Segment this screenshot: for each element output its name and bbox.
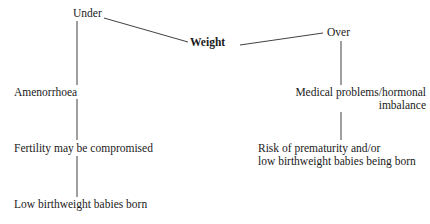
connector-lines-group bbox=[0, 0, 430, 224]
node-weight: Weight bbox=[190, 36, 225, 49]
node-prematurity-risk: Risk of prematurity and/or low birthweig… bbox=[258, 142, 428, 168]
connector-under-to-weight bbox=[104, 18, 188, 42]
connector-weight-to-over bbox=[240, 33, 323, 45]
node-over: Over bbox=[327, 26, 350, 39]
weight-flowchart-diagram: Under Weight Over Amenorrhoea Medical pr… bbox=[0, 0, 430, 224]
node-amenorrhoea: Amenorrhoea bbox=[14, 86, 77, 99]
node-medical-problems: Medical problems/hormonal imbalance bbox=[278, 86, 426, 112]
node-under: Under bbox=[73, 7, 102, 20]
node-fertility: Fertility may be compromised bbox=[14, 142, 153, 155]
node-low-birthweight: Low birthweight babies born bbox=[14, 198, 147, 211]
